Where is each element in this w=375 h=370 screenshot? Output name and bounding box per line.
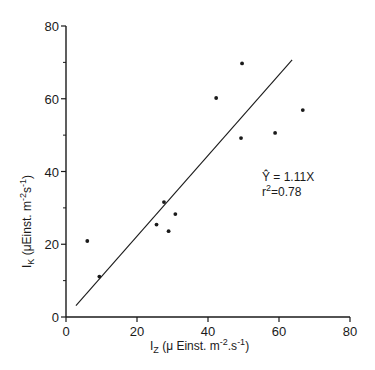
data-point <box>214 96 218 100</box>
x-axis-label: IZ (μ Einst. m-2.s-1) <box>150 337 249 355</box>
data-point <box>167 229 171 233</box>
x-tick-label: 0 <box>62 324 69 339</box>
y-axis-label: IK (μEinst. m-2s-1) <box>18 175 36 268</box>
y-tick-label: 20 <box>45 237 59 252</box>
equation-annotation: Ŷ = 1.11X <box>262 169 314 184</box>
y-tick-label: 80 <box>45 19 59 34</box>
regression-line <box>76 60 292 306</box>
x-tick-label: 20 <box>130 324 144 339</box>
y-tick-label: 60 <box>45 92 59 107</box>
data-point <box>173 212 177 216</box>
data-point <box>273 131 277 135</box>
x-tick-label: 40 <box>201 324 215 339</box>
data-point <box>239 136 243 140</box>
data-point <box>85 239 89 243</box>
fit-line <box>76 60 292 306</box>
data-point <box>301 108 305 112</box>
y-tick-label: 40 <box>45 165 59 180</box>
data-point <box>162 200 166 204</box>
data-point <box>97 275 101 279</box>
data-point <box>240 62 244 66</box>
y-tick-label: 0 <box>52 310 59 325</box>
x-tick-label: 80 <box>343 324 357 339</box>
x-tick-label: 60 <box>272 324 286 339</box>
data-point <box>155 223 159 227</box>
r-squared-annotation: r2=0.78 <box>262 183 302 199</box>
scatter-chart: 020406080020406080 Ŷ = 1.11X r2=0.78 IZ … <box>0 0 375 370</box>
